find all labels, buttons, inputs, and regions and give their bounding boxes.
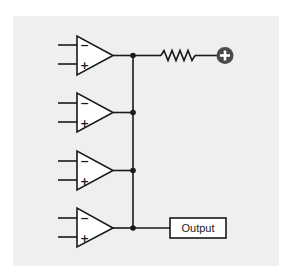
op-amp-2: − + (58, 93, 133, 132)
plus-circle-icon (217, 47, 234, 64)
output-label: Output (181, 222, 214, 234)
noninverting-sign: + (80, 175, 89, 188)
resistor-zigzag-icon (161, 51, 195, 61)
inverting-sign: − (80, 212, 89, 225)
noninverting-sign: + (80, 232, 89, 245)
op-amp-4: − + (58, 208, 133, 247)
op-amp-1: − + (58, 36, 133, 75)
inverting-sign: − (80, 39, 89, 52)
inverting-sign: − (80, 97, 89, 110)
noninverting-sign: + (80, 59, 89, 72)
junction-dot (130, 110, 136, 116)
noninverting-sign: + (80, 117, 89, 130)
circuit-diagram: − + − + − + − + (0, 0, 287, 276)
junction-dot (130, 168, 136, 174)
inverting-sign: − (80, 155, 89, 168)
pullup-resistor (133, 51, 217, 61)
op-amp-3: − + (58, 151, 133, 190)
